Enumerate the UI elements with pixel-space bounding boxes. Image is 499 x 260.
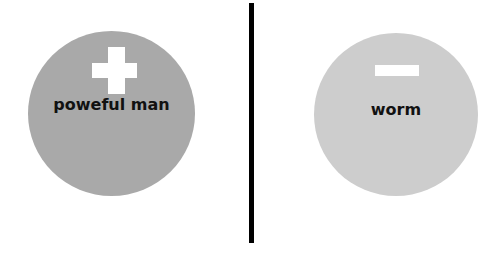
plus-icon-bar (92, 63, 137, 78)
right-label: worm (314, 100, 478, 119)
vertical-divider (249, 3, 254, 243)
left-label: poweful man (28, 95, 195, 114)
minus-icon (375, 65, 419, 76)
